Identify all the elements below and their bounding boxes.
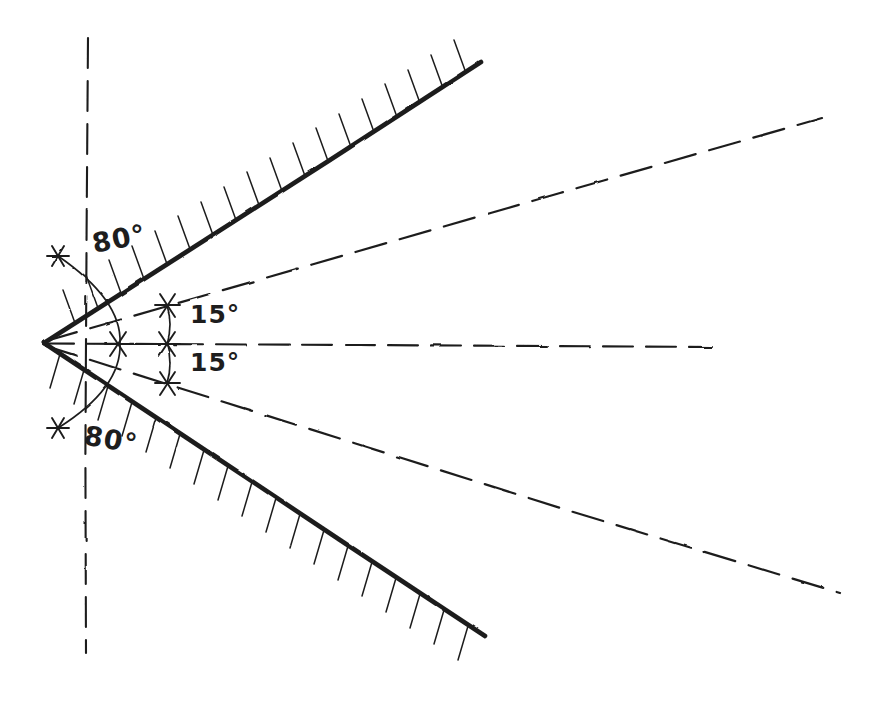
upper-ray-hatching bbox=[63, 40, 466, 323]
upper-dashed-ray bbox=[46, 118, 822, 341]
star-15-lower-marker bbox=[155, 372, 180, 395]
star-center-inner-marker bbox=[105, 332, 131, 356]
drawing-canvas: 80° 80° 15° 15° bbox=[0, 0, 870, 707]
angle-diagram-svg bbox=[0, 0, 870, 707]
lower-ray-hatching bbox=[50, 354, 468, 660]
upper-boundary-ray bbox=[44, 62, 481, 343]
angle-label-lower-15: 15° bbox=[190, 348, 240, 377]
vertical-reference-line bbox=[85, 38, 88, 653]
star-arc-top-marker bbox=[47, 246, 69, 266]
star-15-upper-marker bbox=[155, 294, 180, 317]
dimension-star-markers bbox=[47, 246, 180, 438]
angle-arc-80 bbox=[58, 256, 120, 428]
angle-label-upper-15: 15° bbox=[190, 300, 240, 329]
horizontal-centerline bbox=[44, 344, 712, 348]
lower-boundary-ray bbox=[44, 343, 485, 636]
star-center-outer-marker bbox=[154, 332, 180, 356]
star-arc-bottom-marker bbox=[47, 418, 69, 438]
